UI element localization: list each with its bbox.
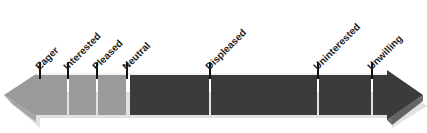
segment-eager-to-interested [36,75,67,115]
segment-uninterested-to-unwilling [319,75,371,115]
bar-top-highlight [36,73,387,75]
segment-unwilling-to-end [373,75,387,115]
segment-displeased-to-uninterested [211,75,317,115]
attitude-spectrum-diagram: Eager Interested Pleased Neutral Displea… [0,0,427,133]
segment-pleased-to-neutral [98,75,126,115]
segment-interested-to-pleased [69,75,96,115]
segment-neutral-to-displeased [130,75,209,115]
